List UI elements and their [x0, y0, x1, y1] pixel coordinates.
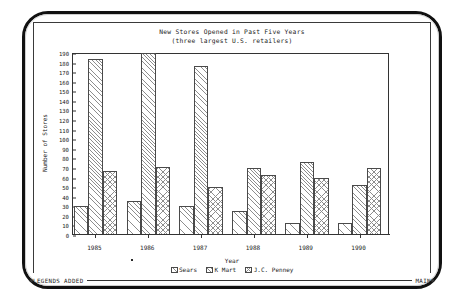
status-divider: [87, 280, 413, 281]
x-axis-tick-label: 1986: [140, 244, 154, 251]
x-axis-tick-label: 1990: [351, 244, 365, 251]
y-axis-tick-mark: [73, 121, 76, 122]
legend-label: Sears: [179, 266, 197, 273]
y-axis-tick-label: 40: [62, 195, 73, 201]
bar-j-c-penney-1990: [367, 168, 382, 235]
legend-label: J.C. Penney: [254, 266, 294, 273]
y-axis-tick-mark: [73, 236, 76, 237]
x-axis-tick-label: 1989: [299, 244, 313, 251]
legend-label: K Mart: [215, 266, 237, 273]
legend-item-sears: Sears: [171, 266, 198, 273]
x-axis-tick-mark: [148, 235, 149, 238]
x-axis-tick-mark: [254, 235, 255, 238]
y-axis-tick-label: 50: [62, 185, 73, 191]
legend-item-j-c-penney: J.C. Penney: [245, 266, 293, 273]
y-axis-tick-label: 30: [62, 204, 73, 210]
y-axis-tick-label: 90: [62, 147, 73, 153]
y-axis-tick-label: 180: [59, 61, 73, 67]
bar-k-mart-1990: [352, 185, 367, 235]
bar-k-mart-1985: [88, 59, 103, 235]
crt-terminal-screenshot: New Stores Opened in Past Five Years (th…: [0, 0, 464, 307]
y-axis-tick-label: 60: [62, 176, 73, 182]
bar-k-mart-1988: [247, 168, 262, 235]
y-axis-tick-label: 140: [59, 99, 73, 105]
y-axis-title: Number of Stores: [41, 114, 48, 172]
status-right-marker: [430, 278, 434, 282]
status-right-text: MAIN: [415, 278, 431, 284]
y-axis-tick-label: 160: [59, 80, 73, 86]
bar-sears-1988: [232, 211, 247, 235]
x-axis-tick-mark: [201, 235, 202, 238]
y-axis-tick-mark: [73, 149, 76, 150]
x-axis-tick-mark: [307, 235, 308, 238]
y-axis-tick-label: 70: [62, 166, 73, 172]
bar-k-mart-1986: [141, 53, 156, 235]
bar-sears-1987: [179, 206, 194, 235]
chart-title-block: New Stores Opened in Past Five Years (th…: [33, 27, 431, 45]
legend-swatch-icon: [245, 267, 252, 273]
y-axis-tick-label: 80: [62, 156, 73, 162]
chart-title: New Stores Opened in Past Five Years: [33, 27, 431, 36]
x-axis-tick-label: 1985: [87, 244, 101, 251]
status-left-text: LEGENDS ADDED: [33, 278, 84, 284]
y-axis-tick-mark: [73, 111, 76, 112]
x-axis-title: Year: [33, 257, 431, 264]
y-axis-tick-label: 190: [59, 51, 73, 57]
status-bar: LEGENDS ADDED MAIN: [30, 276, 434, 285]
y-axis-tick-label: 150: [59, 89, 73, 95]
y-axis-tick-label: 20: [62, 214, 73, 220]
y-axis-tick-label: 10: [62, 223, 73, 229]
x-axis-tick-mark: [95, 235, 96, 238]
bar-j-c-penney-1989: [314, 178, 329, 235]
y-axis-tick-label: 170: [59, 70, 73, 76]
y-axis-tick-mark: [73, 54, 76, 55]
y-axis-tick-label: 110: [59, 128, 73, 134]
y-axis-tick-mark: [73, 197, 76, 198]
cursor-dot: [131, 259, 133, 261]
bar-j-c-penney-1986: [156, 167, 171, 235]
legend-swatch-icon: [171, 267, 178, 273]
bar-sears-1986: [127, 201, 142, 235]
bar-j-c-penney-1985: [103, 171, 118, 235]
y-axis-tick-mark: [73, 130, 76, 131]
y-axis-tick-mark: [73, 92, 76, 93]
x-axis-tick-label: 1987: [193, 244, 207, 251]
y-axis-tick-mark: [73, 178, 76, 179]
plot-area: 0102030405060708090100110120130140150160…: [72, 53, 389, 235]
y-axis-tick-mark: [73, 73, 76, 74]
x-axis-tick-label: 1988: [246, 244, 260, 251]
y-axis-tick-mark: [73, 159, 76, 160]
chart-legend: SearsK MartJ.C. Penney: [33, 266, 431, 273]
bar-j-c-penney-1987: [208, 187, 223, 235]
y-axis-tick-mark: [73, 101, 76, 102]
bar-j-c-penney-1988: [261, 175, 276, 235]
x-axis-tick-mark: [360, 235, 361, 238]
x-axis-line: [72, 234, 390, 235]
y-axis-tick-label: 130: [59, 108, 73, 114]
y-axis-tick-mark: [73, 168, 76, 169]
bar-sears-1985: [74, 206, 89, 235]
y-axis-tick-mark: [73, 82, 76, 83]
legend-item-k-mart: K Mart: [206, 266, 236, 273]
bar-k-mart-1987: [194, 66, 209, 235]
legend-swatch-icon: [206, 267, 213, 273]
chart-subtitle: (three largest U.S. retailers): [33, 36, 431, 45]
y-axis-tick-mark: [73, 140, 76, 141]
y-axis-tick-label: 120: [59, 118, 73, 124]
y-axis-tick-mark: [73, 63, 76, 64]
y-axis-tick-mark: [73, 188, 76, 189]
bar-k-mart-1989: [300, 162, 315, 235]
y-axis-tick-label: 100: [59, 137, 73, 143]
